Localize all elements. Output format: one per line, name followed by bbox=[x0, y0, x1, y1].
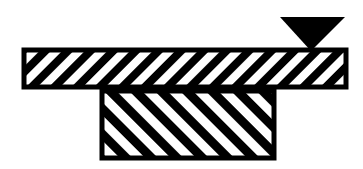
beam-support-diagram bbox=[0, 0, 363, 169]
diagram-canvas: Hatched beam supported on hatched block … bbox=[0, 0, 363, 169]
beam-hatching bbox=[24, 50, 346, 87]
hatched-beam bbox=[24, 50, 346, 87]
support-block bbox=[102, 91, 274, 158]
support-block-hatching bbox=[102, 91, 274, 158]
